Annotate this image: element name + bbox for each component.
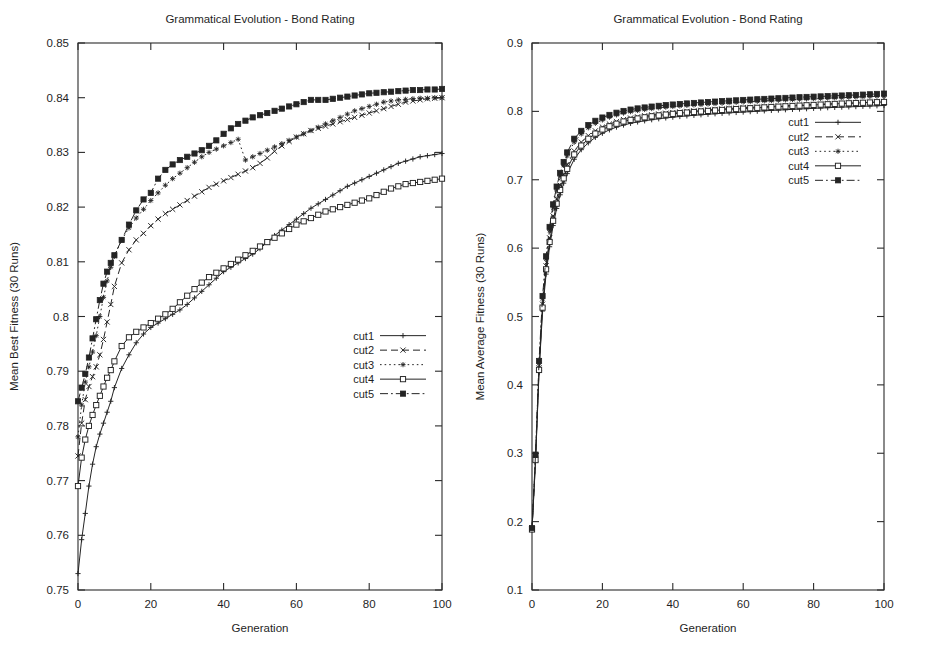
marker-opensquare — [572, 152, 577, 157]
marker-opensquare — [105, 375, 110, 380]
marker-filledsquare — [308, 97, 313, 102]
marker-glyph — [206, 275, 211, 280]
marker-glyph — [418, 179, 423, 184]
marker-glyph — [316, 201, 321, 206]
x-tick-label: 60 — [290, 598, 303, 610]
marker-filledsquare — [543, 254, 548, 259]
marker-glyph — [762, 105, 767, 110]
marker-opensquare — [551, 218, 556, 223]
marker-plus — [345, 184, 350, 189]
marker-glyph — [79, 537, 84, 542]
marker-glyph — [874, 91, 879, 96]
marker-filledsquare — [607, 112, 612, 117]
marker-filledsquare — [206, 143, 211, 148]
marker-glyph — [529, 526, 534, 531]
marker-glyph — [839, 101, 844, 106]
marker-glyph — [846, 101, 851, 106]
marker-filledsquare — [853, 92, 858, 97]
marker-glyph — [105, 269, 110, 274]
marker-opensquare — [101, 384, 106, 389]
marker-opensquare — [155, 316, 160, 321]
marker-glyph — [825, 102, 830, 107]
marker-glyph — [554, 184, 559, 189]
marker-glyph — [432, 95, 437, 100]
legend-label-cut3: cut3 — [353, 359, 374, 371]
marker-filledsquare — [762, 96, 767, 101]
marker-opensquare — [621, 119, 626, 124]
marker-glyph — [881, 91, 886, 96]
marker-glyph — [374, 171, 379, 176]
marker-plus — [83, 511, 88, 516]
marker-glyph — [257, 161, 262, 166]
marker-glyph — [228, 126, 233, 131]
marker-glyph — [126, 335, 131, 340]
marker-glyph — [388, 164, 393, 169]
marker-glyph — [835, 149, 840, 154]
marker-glyph — [400, 333, 405, 338]
marker-glyph — [279, 141, 284, 146]
y-tick-label: 0.2 — [507, 516, 523, 528]
marker-opensquare — [410, 180, 415, 185]
marker-glyph — [755, 97, 760, 102]
marker-opensquare — [439, 176, 444, 181]
marker-opensquare — [748, 106, 753, 111]
marker-filledsquare — [712, 99, 717, 104]
marker-filledsquare — [832, 93, 837, 98]
marker-opensquare — [163, 312, 168, 317]
series-cut3 — [75, 95, 444, 439]
marker-glyph — [94, 403, 99, 408]
marker-glyph — [374, 192, 379, 197]
marker-glyph — [221, 266, 226, 271]
marker-glyph — [236, 121, 241, 126]
marker-filledsquare — [790, 95, 795, 100]
marker-glyph — [561, 176, 566, 181]
marker-glyph — [155, 316, 160, 321]
marker-glyph — [439, 151, 444, 156]
marker-glyph — [403, 88, 408, 93]
series-line-cut3 — [532, 96, 884, 529]
marker-opensquare — [684, 110, 689, 115]
marker-opensquare — [698, 109, 703, 114]
y-tick-label: 0.9 — [507, 37, 523, 49]
marker-star — [439, 95, 444, 100]
marker-glyph — [804, 94, 809, 99]
marker-filledsquare — [540, 293, 545, 298]
marker-glyph — [155, 190, 160, 195]
marker-glyph — [381, 189, 386, 194]
marker-glyph — [439, 86, 444, 91]
marker-glyph — [308, 97, 313, 102]
marker-glyph — [614, 121, 619, 126]
marker-filledsquare — [79, 385, 84, 390]
marker-filledsquare — [228, 126, 233, 131]
marker-glyph — [221, 131, 226, 136]
marker-glyph — [396, 89, 401, 94]
marker-cross — [352, 115, 357, 120]
figure-root: Grammatical Evolution - Bond Rating0.750… — [0, 0, 931, 670]
marker-glyph — [155, 217, 160, 222]
marker-plus — [79, 537, 84, 542]
marker-glyph — [272, 235, 277, 240]
marker-filledsquare — [367, 91, 372, 96]
marker-plus — [75, 571, 80, 576]
marker-glyph — [543, 254, 548, 259]
marker-opensquare — [287, 226, 292, 231]
marker-glyph — [565, 150, 570, 155]
marker-opensquare — [635, 116, 640, 121]
marker-glyph — [790, 103, 795, 108]
marker-filledsquare — [670, 102, 675, 107]
marker-glyph — [677, 111, 682, 116]
marker-plus — [94, 444, 99, 449]
y-tick-label: 0.4 — [507, 379, 524, 391]
marker-opensquare — [797, 103, 802, 108]
marker-glyph — [185, 154, 190, 159]
marker-glyph — [345, 184, 350, 189]
marker-glyph — [83, 511, 88, 516]
legend-label-cut1: cut1 — [788, 116, 809, 128]
marker-glyph — [352, 180, 357, 185]
marker-glyph — [614, 110, 619, 115]
marker-glyph — [192, 160, 197, 165]
marker-glyph — [410, 96, 415, 101]
x-tick-label: 100 — [432, 598, 451, 610]
marker-glyph — [112, 253, 117, 258]
marker-opensquare — [600, 127, 605, 132]
